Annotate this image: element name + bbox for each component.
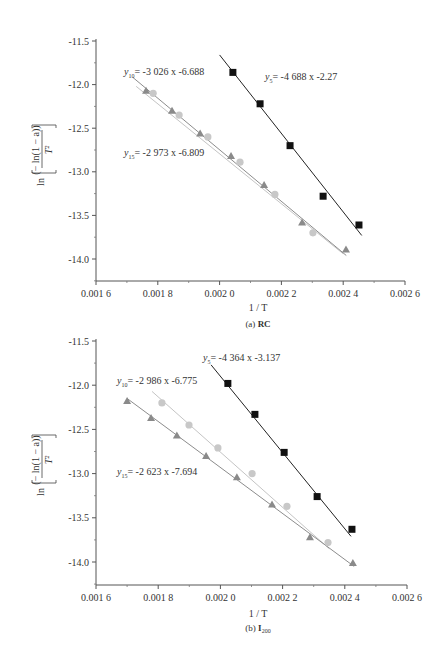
data-point-circle — [309, 229, 316, 236]
x-tick-label: 0.002 0 — [205, 288, 235, 299]
y-axis-title: ln(− ln(1 − a))T² — [30, 125, 56, 186]
chart-caption: (b) I200 — [245, 623, 270, 634]
data-point-square — [287, 142, 294, 149]
fit-line-y15 — [127, 398, 354, 566]
data-point-square — [257, 100, 264, 107]
x-tick-label: 0.001 6 — [81, 288, 111, 299]
figure: -11.5-12.0-12.5-13.0-13.5-14.00.001 60.0… — [0, 0, 446, 663]
chart-caption: (a) RC — [245, 319, 270, 329]
x-tick-label: 0.001 6 — [81, 592, 111, 603]
data-point-square — [281, 449, 288, 456]
svg-text:(− ln(1 − a)): (− ln(1 − a)) — [30, 125, 42, 174]
equation-label-y5: y5= -4 364 x -3.137 — [202, 352, 280, 365]
data-point-circle — [204, 133, 211, 140]
data-point-triangle — [227, 152, 235, 159]
y-tick-label: -12.5 — [68, 424, 89, 435]
svg-text:ln: ln — [35, 488, 46, 496]
equation-label-y10: y10= -3 026 x -6.688 — [123, 66, 204, 79]
svg-text:T²: T² — [43, 145, 54, 155]
svg-text:ln: ln — [35, 178, 46, 186]
chart-b-i200: -11.5-12.0-12.5-13.0-13.5-14.00.001 60.0… — [30, 336, 422, 635]
data-point-square — [229, 69, 236, 76]
y-tick-label: -14.0 — [68, 557, 89, 568]
data-point-circle — [249, 470, 256, 477]
data-point-square — [314, 493, 321, 500]
svg-text:T²: T² — [43, 455, 54, 465]
fit-line-y10 — [136, 86, 343, 253]
y-tick-label: -13.0 — [68, 166, 89, 177]
data-point-circle — [283, 503, 290, 510]
data-point-square — [348, 526, 355, 533]
data-point-square — [251, 411, 258, 418]
data-point-triangle — [349, 559, 357, 566]
y-tick-label: -14.0 — [68, 254, 89, 265]
data-point-triangle — [298, 218, 306, 225]
y-tick-label: -11.5 — [69, 336, 89, 347]
data-point-triangle — [147, 414, 155, 421]
data-point-square — [224, 380, 231, 387]
y-tick-label: -11.5 — [69, 36, 89, 47]
y-tick-label: -12.5 — [68, 123, 89, 134]
data-point-square — [355, 221, 362, 228]
x-tick-label: 0.001 8 — [143, 592, 173, 603]
x-tick-label: 0.002 2 — [266, 288, 296, 299]
data-point-triangle — [196, 129, 204, 136]
y-tick-label: -13.5 — [68, 210, 89, 221]
fit-line-y15 — [133, 78, 346, 256]
data-point-circle — [150, 90, 157, 97]
equation-label-y15: y15= -2 623 x -7.694 — [116, 466, 197, 479]
data-point-circle — [158, 399, 165, 406]
x-tick-label: 0.002 6 — [390, 288, 420, 299]
data-point-circle — [271, 191, 278, 198]
x-tick-label: 0.002 0 — [205, 592, 235, 603]
x-tick-label: 0.002 4 — [328, 288, 358, 299]
x-tick-label: 0.002 2 — [268, 592, 298, 603]
data-point-triangle — [342, 245, 350, 252]
svg-text:(− ln(1 − a)): (− ln(1 − a)) — [30, 435, 42, 484]
y-tick-label: -13.5 — [68, 512, 89, 523]
data-point-circle — [324, 539, 331, 546]
chart-a-rc: -11.5-12.0-12.5-13.0-13.5-14.00.001 60.0… — [30, 36, 420, 330]
y-tick-label: -12.0 — [68, 79, 89, 90]
data-point-triangle — [233, 473, 241, 480]
data-point-square — [320, 193, 327, 200]
x-tick-label: 0.001 8 — [143, 288, 173, 299]
data-point-circle — [185, 421, 192, 428]
equation-label-y5: y5= -4 688 x -2.27 — [264, 71, 337, 84]
data-point-circle — [176, 112, 183, 119]
x-tick-label: 0.002 6 — [392, 592, 422, 603]
equation-label-y10: y10= -2 986 x -6.775 — [116, 375, 197, 388]
x-axis-title: 1 / T — [249, 608, 268, 619]
y-axis-title: ln(− ln(1 − a))T² — [30, 435, 56, 496]
data-point-circle — [214, 444, 221, 451]
data-point-circle — [236, 159, 243, 166]
x-axis-title: 1 / T — [249, 302, 268, 313]
y-tick-label: -12.0 — [68, 380, 89, 391]
y-tick-label: -13.0 — [68, 468, 89, 479]
equation-label-y15: y15= -2 973 x -6.809 — [123, 147, 204, 160]
x-tick-label: 0.002 4 — [330, 592, 360, 603]
